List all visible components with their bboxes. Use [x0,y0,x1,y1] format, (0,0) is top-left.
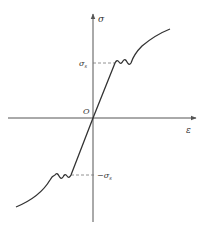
yield-negative-subscript: s [109,175,112,181]
y-axis-label: σ [98,14,105,24]
stress-strain-diagram: σ ε O σs −σs [0,0,206,235]
x-axis-label: ε [186,125,191,135]
yield-negative-label: −σs [97,171,112,181]
yield-positive-label: σs [79,59,87,69]
compression-curve [16,118,93,207]
yield-positive-subscript: s [84,63,87,69]
yield-negative-symbol: −σ [97,171,110,180]
tension-curve [93,29,170,118]
origin-label: O [83,107,90,116]
